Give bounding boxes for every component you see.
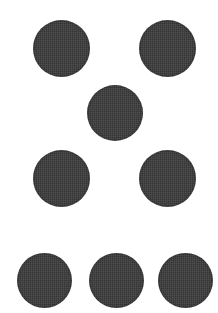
dot-5: [139, 150, 196, 207]
dot-4: [33, 150, 90, 207]
dot-3: [87, 85, 143, 141]
dot-8: [158, 253, 213, 308]
dot-2: [139, 20, 196, 77]
dot-1: [33, 20, 90, 77]
dot-6: [17, 253, 72, 308]
dot-pattern-canvas: [0, 0, 218, 313]
dot-7: [89, 253, 144, 308]
